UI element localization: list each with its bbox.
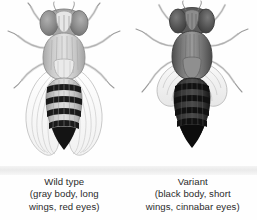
wild-type-eye-left — [40, 11, 58, 36]
variant-abdomen — [174, 78, 210, 148]
variant-head — [170, 1, 215, 35]
variant-thorax — [172, 31, 212, 80]
shelf-divider — [0, 166, 257, 175]
variant-caption: Variant (black body, short wings, cinnab… — [129, 176, 258, 213]
variant-caption-title: Variant — [129, 176, 258, 188]
wild-type-caption: Wild type (gray body, long wings, red ey… — [0, 176, 129, 213]
variant-caption-line1: (black body, short — [129, 188, 258, 200]
wild-type-caption-title: Wild type — [0, 176, 129, 188]
variant-eye-right — [198, 9, 215, 33]
wild-type-eye-right — [70, 11, 88, 36]
wild-type-caption-line2: wings, red eyes) — [0, 201, 129, 213]
variant-abdomen-tip — [180, 125, 204, 149]
illustration-area — [0, 0, 257, 172]
wild-type-head — [40, 2, 88, 37]
wild-type-caption-line1: (gray body, long — [0, 188, 129, 200]
wild-type-thorax — [43, 33, 85, 80]
variant-eye-left — [170, 9, 187, 33]
variant-caption-line2: wings, cinnabar eyes) — [129, 201, 258, 213]
fly-comparison-figure: Wild type (gray body, long wings, red ey… — [0, 0, 257, 220]
caption-row: Wild type (gray body, long wings, red ey… — [0, 176, 257, 213]
wild-type-fly-illustration — [0, 0, 128, 172]
variant-fly-illustration — [128, 0, 256, 172]
